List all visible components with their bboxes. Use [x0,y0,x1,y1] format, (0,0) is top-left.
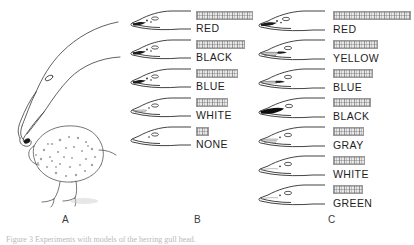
panel-label-b: B [194,214,201,225]
panel-b-row: NONE [128,126,256,155]
response-bar [333,127,364,136]
bar-label: RED [196,22,219,34]
response-bar [196,69,238,78]
gull-head-profile-icon [130,126,192,148]
panel-c-row: RED [256,10,414,39]
figure-caption: Figure 3 Experiments with models of the … [6,236,410,245]
gull-head-profile-icon [258,184,326,207]
panel-b-row: BLACK [128,39,256,68]
gull-head-profile-icon [130,68,192,90]
response-bar [196,127,209,136]
panel-c-row: GRAY [256,126,414,155]
bar-label: YELLOW [333,52,379,64]
figure-root: RED BLACK [0,0,414,245]
bar-label: WHITE [196,109,232,121]
panel-label-a: A [62,214,69,225]
bar-wrap [333,98,371,107]
panel-b-row: BLUE [128,68,256,97]
response-bar [333,40,378,49]
gull-head-profile-icon [130,39,192,61]
panel-label-c: C [328,214,336,225]
bar-wrap [333,156,365,165]
bar-wrap [333,69,373,78]
response-bar [333,185,363,194]
chick-down-texture [35,136,96,177]
bar-label: BLACK [196,51,232,63]
bar-label: GREEN [333,197,372,209]
panel-b: RED BLACK [128,0,256,215]
bar-label: BLACK [333,110,369,122]
panel-c-row: BLUE [256,68,414,97]
bar-label: GRAY [333,139,364,151]
response-bar [196,40,245,49]
gull-head-and-chick-drawing [0,0,128,215]
bar-wrap [333,185,363,194]
panel-c-row: WHITE [256,155,414,184]
gull-head-profile-icon [130,97,192,119]
bar-wrap [196,40,245,49]
gull-head-profile-icon [258,97,326,120]
bar-label: RED [333,23,356,35]
gull-head-profile-icon [258,39,326,62]
bar-wrap [333,40,378,49]
bar-label: BLUE [333,81,362,93]
bar-wrap [196,127,209,136]
bar-wrap [333,127,364,136]
bar-wrap [333,11,411,20]
panel-a [0,0,128,215]
bar-wrap [196,98,228,107]
gull-head-profile-icon [258,68,326,91]
panel-c-row: GREEN [256,184,414,213]
bar-wrap [196,11,253,20]
gull-head-profile-icon [258,155,326,178]
solid-black-bill [260,108,284,114]
bar-label: BLUE [196,80,225,92]
response-bar [196,11,253,20]
response-bar [333,69,373,78]
panel-c: RED YELLOW [256,0,414,215]
gull-head-profile-icon [258,126,326,149]
response-bar [333,156,365,165]
figure-caption-text: Figure 3 Experiments with models of the … [6,236,410,244]
gull-head-profile-icon [258,10,326,33]
bar-label: NONE [196,138,228,150]
bar-wrap [196,69,238,78]
panel-c-row: BLACK [256,97,414,126]
response-bar [333,11,411,20]
panel-b-row: WHITE [128,97,256,126]
response-bar [333,98,371,107]
panel-c-row: YELLOW [256,39,414,68]
gull-head-profile-icon [130,10,192,32]
bar-label: WHITE [333,168,369,180]
response-bar [196,98,228,107]
panel-b-row: RED [128,10,256,39]
